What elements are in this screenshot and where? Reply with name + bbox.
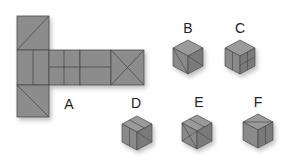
net-face-3 (80, 50, 111, 85)
option-label-d: D (131, 96, 141, 110)
cube-option-f[interactable] (243, 114, 273, 148)
net-face-2 (49, 50, 80, 85)
cube-net (17, 16, 144, 117)
puzzle-figure (0, 0, 299, 168)
option-label-b: B (183, 21, 192, 35)
cube-option-c[interactable] (225, 40, 255, 74)
option-label-e: E (194, 95, 203, 109)
cube-option-e[interactable] (182, 115, 212, 149)
cube-option-d[interactable] (122, 116, 152, 150)
option-label-f: F (254, 95, 263, 109)
net-label: A (64, 97, 73, 111)
option-label-c: C (235, 21, 245, 35)
cube-option-b[interactable] (173, 40, 203, 74)
